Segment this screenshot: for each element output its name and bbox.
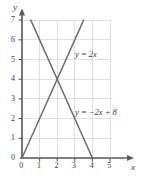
equation-label-line2: y = −2x + 8 xyxy=(75,108,117,117)
x-tick-label-3: 3 xyxy=(72,162,76,170)
graph-figure: 0 1 2 3 4 5 0 1 2 3 4 5 6 7 y x y = 2x y… xyxy=(0,0,143,178)
equation-label-line1: y = 2x xyxy=(75,50,97,59)
y-tick-label-7: 7 xyxy=(11,16,15,24)
y-tick-label-5: 5 xyxy=(11,56,15,64)
x-tick-label-1: 1 xyxy=(37,162,41,170)
y-tick-label-2: 2 xyxy=(11,115,15,123)
x-axis-label: x xyxy=(131,163,135,172)
grid-horizontal-lines xyxy=(22,20,110,158)
line-y-equals-minus-2x-plus-8 xyxy=(31,20,93,158)
y-tick-label-0: 0 xyxy=(11,154,15,162)
y-tick-label-6: 6 xyxy=(11,36,15,44)
x-tick-label-0: 0 xyxy=(19,162,23,170)
x-axis-arrowhead xyxy=(127,155,134,161)
plot-canvas xyxy=(0,0,143,178)
x-tick-label-2: 2 xyxy=(55,162,59,170)
y-tick-label-4: 4 xyxy=(11,75,15,83)
grid-vertical-lines xyxy=(22,20,110,158)
x-tick-label-4: 4 xyxy=(90,162,94,170)
line-y-equals-2x xyxy=(22,20,84,158)
y-axis-arrowhead xyxy=(19,9,25,16)
y-tick-label-3: 3 xyxy=(11,95,15,103)
y-axis-label: y xyxy=(13,3,17,12)
x-tick-label-5: 5 xyxy=(107,162,111,170)
y-tick-label-1: 1 xyxy=(11,134,15,142)
